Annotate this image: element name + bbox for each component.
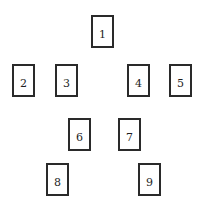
card-position-2: 2 xyxy=(12,64,35,97)
card-position-1: 1 xyxy=(91,15,114,48)
card-position-8: 8 xyxy=(46,163,69,196)
card-number: 1 xyxy=(93,29,112,41)
card-number: 4 xyxy=(129,78,148,90)
card-position-9: 9 xyxy=(138,163,161,196)
card-position-6: 6 xyxy=(68,118,91,151)
card-spread-diagram: 1 2 3 4 5 6 7 8 9 xyxy=(0,0,202,208)
card-number: 9 xyxy=(140,177,159,189)
card-number: 8 xyxy=(48,177,67,189)
card-number: 6 xyxy=(70,132,89,144)
card-number: 7 xyxy=(120,132,139,144)
card-position-7: 7 xyxy=(118,118,141,151)
card-position-5: 5 xyxy=(169,64,192,97)
card-position-3: 3 xyxy=(55,64,78,97)
card-number: 5 xyxy=(171,78,190,90)
card-number: 2 xyxy=(14,78,33,90)
card-number: 3 xyxy=(57,78,76,90)
card-position-4: 4 xyxy=(127,64,150,97)
